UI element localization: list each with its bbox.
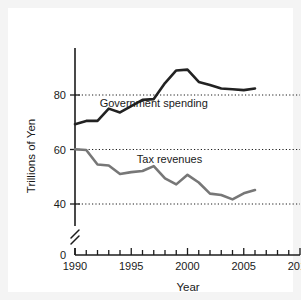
x-tick-label-1990: 1990 bbox=[63, 260, 87, 272]
y-zero-label: 0 bbox=[60, 249, 66, 261]
x-minor-ticks-group bbox=[75, 248, 300, 255]
y-tick-label-80: 80 bbox=[54, 89, 66, 101]
series-label-tax-revenues: Tax revenues bbox=[137, 153, 203, 165]
x-axis-title: Year bbox=[176, 281, 199, 293]
series-labels-group: Government spendingTax revenues bbox=[100, 97, 208, 164]
x-tick-label-1995: 1995 bbox=[119, 260, 143, 272]
x-tick-label-2005: 2005 bbox=[232, 260, 256, 272]
x-tick-label-2010: 2010 bbox=[288, 260, 301, 272]
chart-frame: 406080 19901995200020052010 0 Government… bbox=[0, 0, 301, 300]
y-axis-title: Trillions of Yen bbox=[25, 119, 37, 193]
x-tick-label-2000: 2000 bbox=[175, 260, 199, 272]
series-paths-group bbox=[75, 70, 255, 200]
y-tick-label-40: 40 bbox=[54, 198, 66, 210]
x-tick-labels-group: 19901995200020052010 bbox=[63, 260, 301, 272]
series-label-government-spending: Government spending bbox=[100, 97, 208, 109]
axis-break-icon bbox=[71, 230, 79, 244]
y-tick-labels-group: 406080 bbox=[54, 89, 66, 210]
gridlines-group bbox=[75, 95, 300, 204]
chart-plot-area: 406080 19901995200020052010 0 Government… bbox=[8, 8, 301, 300]
line-chart-svg: 406080 19901995200020052010 0 Government… bbox=[8, 8, 301, 300]
y-tick-label-60: 60 bbox=[54, 144, 66, 156]
